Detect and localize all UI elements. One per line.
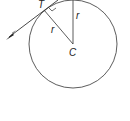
label-r-vertical: r [76,10,80,21]
label-r-slanted: r [51,24,55,35]
right-angle-marker [48,7,56,11]
label-t: T [38,0,45,10]
tangent-diagram: T r r C [0,0,130,121]
slanted-radius [44,10,73,44]
arrowhead-icon [6,30,16,40]
label-c: C [69,47,77,58]
